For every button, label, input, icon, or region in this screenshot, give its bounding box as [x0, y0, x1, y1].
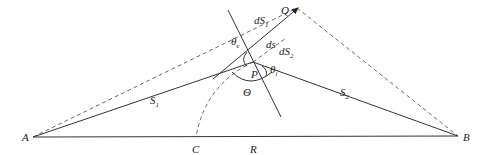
- label-Theta: Θ: [243, 86, 251, 98]
- diagram-canvas: A B C P Q S1 S2 R dS1 dS2 ds θe θi Θ: [0, 0, 484, 155]
- angle-theta-i-arc: [262, 66, 267, 76]
- label-P: P: [250, 68, 258, 80]
- label-dS1: dS1: [254, 14, 269, 29]
- label-C: C: [192, 143, 200, 155]
- dashed-line-QB: [297, 8, 458, 136]
- arc-PC: [196, 62, 253, 137]
- label-theta-e: θe: [231, 35, 240, 50]
- label-Q: Q: [281, 4, 289, 16]
- label-ds: ds: [266, 38, 276, 50]
- label-B: B: [463, 131, 470, 143]
- line-S2: [253, 62, 458, 136]
- label-dS2: dS2: [279, 45, 294, 60]
- line-R: [33, 136, 458, 137]
- label-S2: S2: [340, 86, 350, 101]
- label-R: R: [249, 143, 257, 155]
- label-A: A: [21, 131, 29, 143]
- label-theta-i: θi: [270, 63, 277, 78]
- label-S1: S1: [150, 94, 159, 109]
